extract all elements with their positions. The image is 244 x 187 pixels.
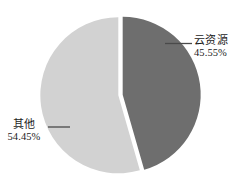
pie-chart-canvas <box>0 0 244 187</box>
pie-label-cloud-resource: 云资源 45.55% <box>194 34 228 59</box>
pie-chart-figure: 云资源 45.55% 其他 54.45% <box>0 0 244 187</box>
pie-label-cloud-resource-value: 45.55% <box>194 47 228 59</box>
pie-label-other-name: 其他 <box>2 118 46 131</box>
pie-label-other: 其他 54.45% <box>2 118 46 143</box>
pie-label-other-value: 54.45% <box>2 131 46 143</box>
pie-slice-cloud-resource[interactable] <box>123 17 201 170</box>
pie-label-cloud-resource-name: 云资源 <box>194 34 228 47</box>
